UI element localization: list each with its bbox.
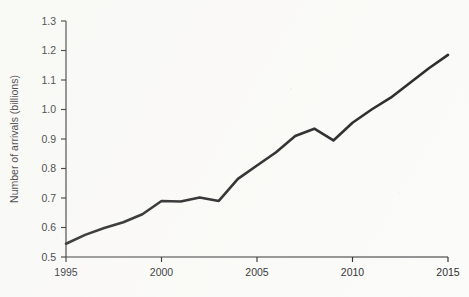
y-axis: 0.50.60.70.80.91.01.11.21.3 bbox=[41, 15, 66, 263]
y-axis-title: Number of arrivals (billions) bbox=[8, 75, 20, 203]
y-tick-label: 0.8 bbox=[41, 162, 56, 174]
line-chart: 0.50.60.70.80.91.01.11.21.3 199520002005… bbox=[0, 0, 469, 297]
y-tick-label: 1.3 bbox=[41, 15, 56, 27]
chart-container: 0.50.60.70.80.91.01.11.21.3 199520002005… bbox=[0, 0, 469, 297]
y-tick-label: 0.5 bbox=[41, 251, 56, 263]
y-tick-label: 0.6 bbox=[41, 221, 56, 233]
x-tick-label: 2010 bbox=[341, 266, 365, 278]
y-tick-label: 1.1 bbox=[41, 74, 56, 86]
y-tick-label: 1.2 bbox=[41, 44, 56, 56]
y-tick-label: 1.0 bbox=[41, 103, 56, 115]
x-axis: 19952000200520102015 bbox=[54, 257, 460, 278]
data-series-line bbox=[66, 55, 448, 244]
x-tick-label: 2000 bbox=[150, 266, 174, 278]
x-axis-ticks: 19952000200520102015 bbox=[54, 257, 460, 278]
x-tick-label: 2005 bbox=[245, 266, 269, 278]
y-tick-label: 0.9 bbox=[41, 133, 56, 145]
x-tick-label: 2015 bbox=[436, 266, 460, 278]
y-axis-ticks: 0.50.60.70.80.91.01.11.21.3 bbox=[41, 15, 66, 263]
x-tick-label: 1995 bbox=[54, 266, 78, 278]
y-tick-label: 0.7 bbox=[41, 192, 56, 204]
